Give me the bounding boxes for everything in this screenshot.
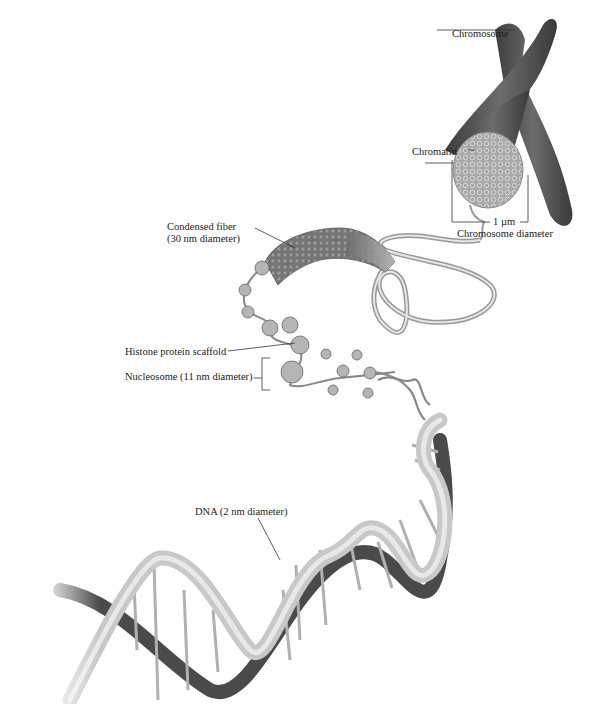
- label-histone-scaffold: Histone protein scaffold: [125, 346, 226, 358]
- label-nucleosome: Nucleosome (11 nm diameter): [125, 371, 253, 383]
- dna-thin-segment: [375, 372, 430, 420]
- label-condensed-fiber-diameter: (30 nm diameter): [167, 233, 240, 245]
- label-dna: DNA (2 nm diameter): [195, 506, 287, 518]
- illustration: [0, 0, 590, 704]
- label-condensed-fiber: Condensed fiber: [167, 221, 236, 233]
- label-chromosome: Chromosome: [452, 28, 509, 40]
- label-scale: 1 µm: [493, 216, 515, 228]
- chromatin-strand: [374, 236, 494, 333]
- dna-double-helix: [40, 420, 446, 704]
- condensed-fiber: [265, 228, 395, 285]
- label-chromosome-diameter: Chromosome diameter: [457, 228, 553, 240]
- dna-packaging-figure: Chromosome Chromatin 1 µm Chromosome dia…: [0, 0, 590, 704]
- label-chromatin: Chromatin: [412, 146, 457, 158]
